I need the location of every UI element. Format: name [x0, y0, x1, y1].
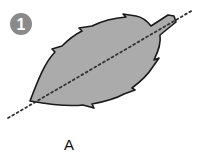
leaf-figure: 1	[0, 0, 206, 163]
step-number: 1	[17, 16, 26, 33]
step-badge: 1	[10, 13, 32, 35]
figure-label: A	[64, 136, 74, 153]
leaf-icon	[30, 14, 176, 108]
